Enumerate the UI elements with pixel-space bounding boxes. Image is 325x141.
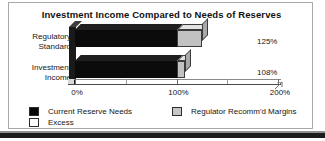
legend-label-current-reserve-needs: Current Reserve Needs <box>48 107 132 116</box>
legend-label-excess: Excess <box>48 118 74 127</box>
chart-screenshot: Investment Income Compared to Needs of R… <box>0 0 325 141</box>
legend-swatch-regulator-recommd-margins <box>172 107 182 116</box>
chart-panel: Investment Income Compared to Needs of R… <box>8 2 313 129</box>
legend-swatch-excess <box>29 118 39 127</box>
legend-label-regulator-recommd-margins: Regulator Recomm'd Margins <box>191 107 297 116</box>
legend-swatch-current-reserve-needs <box>29 107 39 116</box>
chart-legend: Current Reserve Needs Excess Regulator R… <box>9 3 314 130</box>
scan-bottom-strip <box>0 133 325 138</box>
